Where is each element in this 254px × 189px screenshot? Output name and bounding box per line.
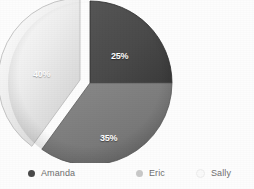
pie-chart: 25% 35% 40% Amanda Eric Sally <box>0 0 254 189</box>
legend-item-eric[interactable]: Eric <box>136 168 165 178</box>
legend-swatch-icon-amanda <box>28 170 35 177</box>
pie-vignette <box>8 1 172 163</box>
legend-swatch-icon-eric <box>136 170 143 177</box>
legend-item-amanda[interactable]: Amanda <box>28 168 75 178</box>
pie-svg <box>0 0 254 163</box>
pie-plot-area: 25% 35% 40% <box>0 0 254 163</box>
legend-swatch-icon-sally <box>196 169 205 178</box>
legend-label-amanda: Amanda <box>41 168 75 178</box>
legend-label-sally: Sally <box>211 168 231 178</box>
legend-item-sally[interactable]: Sally <box>196 168 231 178</box>
chart-legend: Amanda Eric Sally <box>0 166 254 186</box>
legend-label-eric: Eric <box>149 168 165 178</box>
